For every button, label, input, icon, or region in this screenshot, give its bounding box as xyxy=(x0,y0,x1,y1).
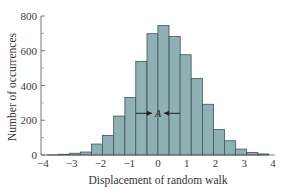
histogram-bar xyxy=(158,26,169,155)
histogram-bar xyxy=(102,135,113,155)
y-tick-label: 400 xyxy=(21,80,38,92)
histogram-bar xyxy=(80,152,91,155)
y-tick-label: 200 xyxy=(21,114,38,126)
x-tick-label: −4 xyxy=(37,157,49,169)
x-tick-label: 1 xyxy=(184,157,190,169)
histogram-bar xyxy=(169,37,180,155)
histogram-bar xyxy=(180,55,191,155)
y-tick-label: 600 xyxy=(21,45,38,57)
x-tick-label: 3 xyxy=(242,157,248,169)
histogram-bar xyxy=(202,104,213,155)
histogram-bar xyxy=(191,79,202,155)
x-tick-label: −2 xyxy=(95,157,107,169)
histogram-bar xyxy=(114,116,125,155)
y-axis-label: Number of occurrences xyxy=(6,33,18,141)
x-tick-label: −3 xyxy=(66,157,78,169)
histogram-bar xyxy=(136,61,147,155)
y-tick-label: 800 xyxy=(21,10,38,22)
x-tick-label: −1 xyxy=(123,157,135,169)
x-tick-label: 2 xyxy=(213,157,219,169)
histogram-bar xyxy=(236,149,247,155)
histogram-bar xyxy=(225,141,236,155)
histogram-bar xyxy=(213,129,224,155)
annotation-label: A xyxy=(154,108,162,119)
histogram-bar xyxy=(147,34,158,155)
x-tick-label: 4 xyxy=(270,157,276,169)
x-tick-label: 0 xyxy=(155,157,161,169)
histogram-bars xyxy=(47,26,269,155)
histogram-bar xyxy=(92,144,103,155)
histogram-chart: 0200400600800−4−3−2−101234 A Number of o… xyxy=(0,0,286,190)
histogram-bar xyxy=(125,97,136,155)
x-axis-label: Displacement of random walk xyxy=(89,174,228,187)
